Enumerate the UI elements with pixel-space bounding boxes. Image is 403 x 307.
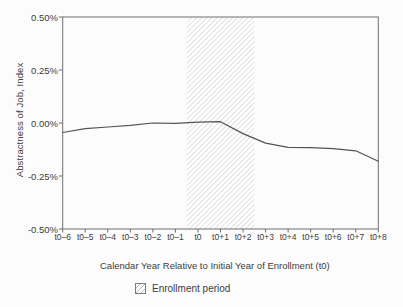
x-tick-label: t0+8 bbox=[362, 232, 394, 243]
legend: Enrollment period bbox=[135, 283, 230, 294]
y-tick-label: 0.50% bbox=[0, 12, 58, 23]
y-tick-label: -0.25% bbox=[0, 171, 58, 182]
legend-label: Enrollment period bbox=[152, 283, 230, 294]
y-tick-label: 0.00% bbox=[0, 118, 58, 129]
y-tick-label: 0.25% bbox=[0, 65, 58, 76]
figure-container: Abstractness of Job, Index 0.50% 0.25% 0… bbox=[0, 0, 403, 307]
hatch-swatch-icon bbox=[135, 283, 146, 294]
x-axis-title: Calendar Year Relative to Initial Year o… bbox=[100, 260, 320, 271]
enrollment-band bbox=[187, 17, 255, 229]
